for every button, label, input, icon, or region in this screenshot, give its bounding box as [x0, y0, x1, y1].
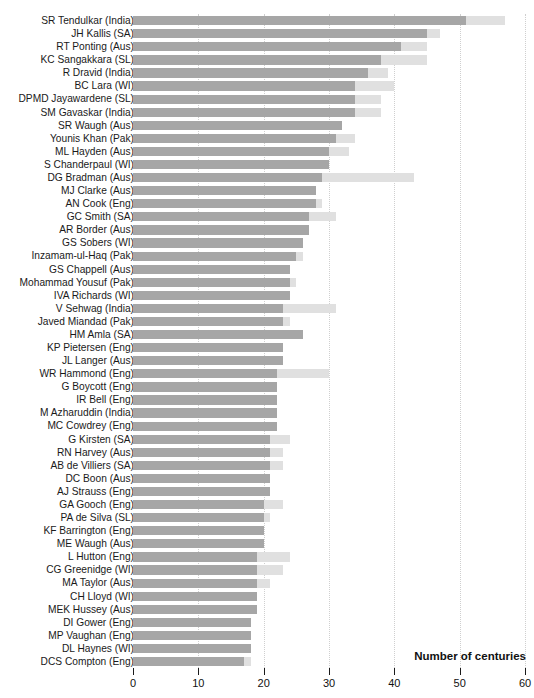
stacked-bar — [133, 225, 309, 234]
bar-segment-away — [270, 448, 283, 457]
row-label: AB de Villiers (SA) — [2, 459, 134, 472]
axis-tick-label: 20 — [244, 677, 284, 689]
bar-segment-home — [133, 55, 381, 64]
stacked-bar — [133, 173, 414, 182]
row-label: JH Kallis (SA) — [2, 27, 134, 40]
bar-segment-home — [133, 16, 466, 25]
bar-segment-away — [322, 173, 413, 182]
row-label: ML Hayden (Aus) — [2, 145, 134, 158]
chart-row: M Azharuddin (India) — [0, 406, 534, 419]
axis-tick-label: 40 — [374, 677, 414, 689]
row-label: BC Lara (WI) — [2, 79, 134, 92]
chart-row: ME Waugh (Aus) — [0, 537, 534, 550]
stacked-bar — [133, 317, 290, 326]
chart-row: GS Sobers (WI) — [0, 236, 534, 249]
row-label: DG Bradman (Aus) — [2, 171, 134, 184]
chart-row: RN Harvey (Aus) — [0, 446, 534, 459]
chart-row: HM Amla (SA) — [0, 328, 534, 341]
stacked-bar — [133, 395, 277, 404]
row-label: GS Chappell (Aus) — [2, 263, 134, 276]
bar-segment-home — [133, 369, 277, 378]
stacked-bar — [133, 186, 316, 195]
chart-row: GC Smith (SA) — [0, 210, 534, 223]
chart-row: AR Border (Aus) — [0, 223, 534, 236]
row-label: ME Waugh (Aus) — [2, 537, 134, 550]
stacked-bar — [133, 291, 290, 300]
axis-tick-label: 10 — [178, 677, 218, 689]
stacked-bar — [133, 199, 322, 208]
bar-segment-home — [133, 343, 283, 352]
row-label: DL Haynes (WI) — [2, 642, 134, 655]
bar-segment-away — [381, 55, 427, 64]
row-label: Younis Khan (Pak) — [2, 132, 134, 145]
bar-segment-away — [257, 552, 290, 561]
axis-tick — [394, 668, 395, 675]
chart-row: AJ Strauss (Eng) — [0, 485, 534, 498]
chart-row: DG Bradman (Aus) — [0, 171, 534, 184]
row-label: M Azharuddin (India) — [2, 406, 134, 419]
stacked-bar — [133, 631, 251, 640]
row-label: AR Border (Aus) — [2, 223, 134, 236]
chart-row: AN Cook (Eng) — [0, 197, 534, 210]
row-label: DC Boon (Aus) — [2, 472, 134, 485]
bar-segment-away — [316, 199, 323, 208]
chart-row: RT Ponting (Aus) — [0, 40, 534, 53]
stacked-bar — [133, 618, 251, 627]
chart-row: CH Lloyd (WI) — [0, 590, 534, 603]
bar-segment-home — [133, 605, 257, 614]
row-label: R Dravid (India) — [2, 66, 134, 79]
bar-segment-home — [133, 291, 290, 300]
chart-row: IR Bell (Eng) — [0, 393, 534, 406]
row-label: DCS Compton (Eng) — [2, 655, 134, 668]
row-label: SR Tendulkar (India) — [2, 14, 134, 27]
chart-title — [0, 0, 534, 6]
bar-segment-home — [133, 552, 257, 561]
bar-segment-home — [133, 644, 251, 653]
chart-row: G Kirsten (SA) — [0, 433, 534, 446]
chart-row: Inzamam-ul-Haq (Pak) — [0, 249, 534, 262]
stacked-bar — [133, 513, 270, 522]
stacked-bar — [133, 356, 283, 365]
chart-row: L Hutton (Eng) — [0, 550, 534, 563]
chart-row: IVA Richards (WI) — [0, 289, 534, 302]
chart-row: DC Boon (Aus) — [0, 472, 534, 485]
row-label: GC Smith (SA) — [2, 210, 134, 223]
row-label: DPMD Jayawardene (SL) — [2, 92, 134, 105]
bar-segment-home — [133, 173, 322, 182]
bar-segment-home — [133, 317, 283, 326]
bar-segment-home — [133, 408, 277, 417]
stacked-bar — [133, 134, 355, 143]
bar-segment-away — [264, 500, 284, 509]
axis-tick-label: 60 — [505, 677, 534, 689]
stacked-bar — [133, 422, 277, 431]
bar-segment-away — [257, 565, 283, 574]
chart-row: V Sehwag (India) — [0, 302, 534, 315]
stacked-bar — [133, 68, 388, 77]
axis-tick-label: 0 — [113, 677, 153, 689]
bar-segment-home — [133, 618, 251, 627]
chart-row: Javed Miandad (Pak) — [0, 315, 534, 328]
bar-segment-home — [133, 657, 244, 666]
bar-segment-home — [133, 68, 368, 77]
chart-row: SR Tendulkar (India) — [0, 14, 534, 27]
stacked-bar — [133, 644, 251, 653]
axis-tick — [264, 668, 265, 675]
row-label: V Sehwag (India) — [2, 302, 134, 315]
axis-tick — [525, 668, 526, 675]
bar-segment-home — [133, 42, 401, 51]
bar-segment-away — [466, 16, 505, 25]
chart-row: KF Barrington (Eng) — [0, 524, 534, 537]
bar-segment-away — [336, 134, 356, 143]
row-label: MEK Hussey (Aus) — [2, 603, 134, 616]
stacked-bar — [133, 108, 381, 117]
bar-segment-home — [133, 513, 264, 522]
stacked-bar — [133, 408, 277, 417]
bar-segment-away — [277, 369, 329, 378]
chart-row: GA Gooch (Eng) — [0, 498, 534, 511]
bar-segment-home — [133, 565, 257, 574]
axis-tick — [460, 668, 461, 675]
bar-segment-away — [296, 252, 303, 261]
chart-row: DPMD Jayawardene (SL) — [0, 92, 534, 105]
axis-tick-label: 30 — [309, 677, 349, 689]
chart-row: CG Greenidge (WI) — [0, 563, 534, 576]
